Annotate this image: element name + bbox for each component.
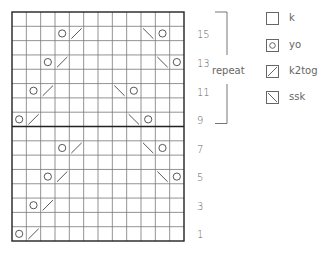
row-label-15: 15 (197, 29, 210, 40)
row-label-9: 9 (197, 115, 203, 126)
slash-left-square-icon (266, 91, 279, 104)
yo-circle-icon (44, 173, 51, 180)
row-label-11: 11 (197, 87, 210, 98)
yo-circle-icon (44, 58, 51, 65)
yo-circle-icon (159, 30, 166, 37)
k2tog-slash-icon (28, 229, 38, 239)
row-label-13: 13 (197, 58, 210, 69)
row-label-5: 5 (197, 172, 203, 183)
yo-circle-icon (16, 230, 23, 237)
k2tog-slash-icon (57, 171, 67, 181)
yo-circle-icon (130, 87, 137, 94)
ssk-backslash-icon (114, 86, 124, 96)
repeat-label: repeat (212, 65, 245, 76)
yo-circle-icon (173, 58, 180, 65)
k2tog-slash-icon (71, 143, 81, 153)
repeat-bracket-bottom (215, 84, 227, 124)
slash-right-square-icon (266, 65, 279, 78)
yo-circle-icon (16, 116, 23, 123)
k2tog-slash-icon (57, 57, 67, 67)
ssk-backslash-icon (143, 28, 153, 38)
yo-circle-icon (30, 87, 37, 94)
k2tog-slash-icon (43, 86, 53, 96)
k2tog-slash-icon (43, 200, 53, 210)
ssk-backslash-icon (157, 57, 167, 67)
row-label-7: 7 (197, 144, 203, 155)
yo-circle-icon (173, 173, 180, 180)
ssk-backslash-icon (157, 171, 167, 181)
circle-in-square-icon (266, 39, 279, 52)
row-label-1: 1 (197, 229, 203, 240)
legend-label-yo: yo (289, 39, 301, 51)
legend-label-k2tog: k2tog (289, 65, 318, 77)
chart-grid (0, 0, 322, 253)
ssk-backslash-icon (143, 143, 153, 153)
yo-circle-icon (59, 144, 66, 151)
row-label-3: 3 (197, 201, 203, 212)
k2tog-slash-icon (28, 114, 38, 124)
k2tog-slash-icon (71, 28, 81, 38)
yo-circle-icon (30, 202, 37, 209)
yo-circle-icon (59, 30, 66, 37)
yo-circle-icon (145, 116, 152, 123)
empty-square-icon (266, 12, 279, 25)
yo-circle-icon (159, 144, 166, 151)
ssk-backslash-icon (129, 114, 139, 124)
repeat-bracket-top (215, 12, 227, 55)
legend-label-ssk: ssk (289, 91, 305, 103)
legend-label-k: k (289, 12, 295, 24)
